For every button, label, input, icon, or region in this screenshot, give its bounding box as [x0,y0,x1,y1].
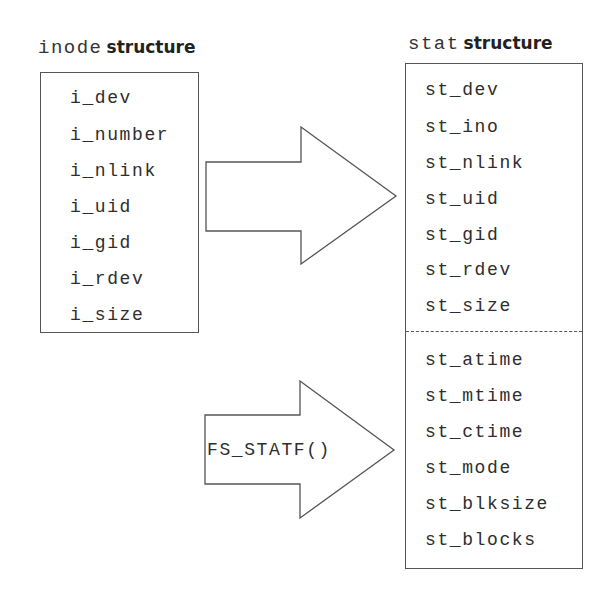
fs-statf-label: FS_STATF() [207,440,331,460]
copy-arrow-icon [206,127,396,264]
arrows-layer [0,0,616,600]
